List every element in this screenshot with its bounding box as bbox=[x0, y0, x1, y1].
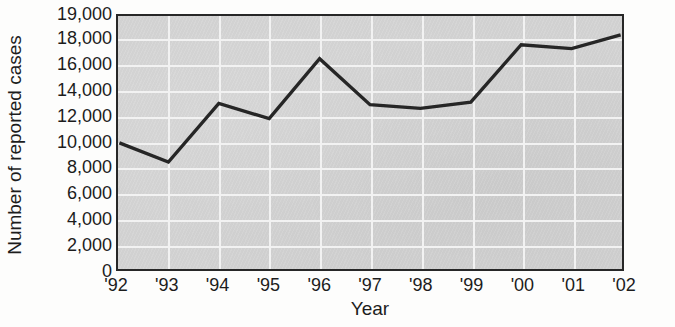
y-axis-tick-label: 14,000 bbox=[32, 81, 112, 99]
y-axis-tick-label: 10,000 bbox=[32, 133, 112, 151]
y-axis-tick-label: 18,000 bbox=[32, 29, 112, 47]
y-axis-tick-label: 8,000 bbox=[32, 158, 112, 176]
line-chart-figure: Number of reported cases 02,0004,0006,00… bbox=[0, 0, 675, 327]
y-axis-tick-label: 6,000 bbox=[32, 184, 112, 202]
y-axis-tick-label: 4,000 bbox=[32, 210, 112, 228]
x-axis-tick-label-group: '92'93'94'95'96'97'98'99'00'01'02 bbox=[116, 274, 624, 300]
x-axis-tick-label: '02 bbox=[594, 274, 654, 296]
x-axis-title: Year bbox=[116, 298, 624, 320]
data-series-line bbox=[118, 16, 622, 269]
y-axis-tick-label: 2,000 bbox=[32, 236, 112, 254]
y-axis-tick-label: 12,000 bbox=[32, 107, 112, 125]
y-axis-tick-label-group: 02,0004,0006,0008,00010,00012,00014,0001… bbox=[32, 0, 112, 290]
y-axis-tick-label: 16,000 bbox=[32, 55, 112, 73]
y-axis-tick-label: 19,000 bbox=[32, 5, 112, 23]
plot-area bbox=[116, 14, 624, 271]
y-axis-title: Number of reported cases bbox=[0, 0, 30, 290]
